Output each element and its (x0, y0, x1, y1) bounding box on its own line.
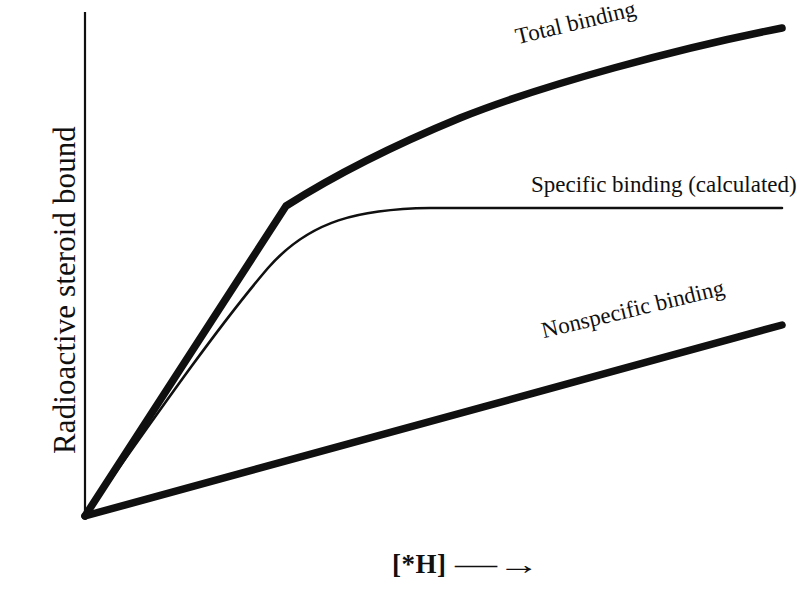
binding-curve-figure: Radioactive steroid bound [*H] —→ Total … (0, 0, 797, 601)
total-binding-curve (85, 28, 782, 516)
x-axis-label-text: [*H] (392, 549, 446, 580)
x-axis-label: [*H] —→ (392, 549, 514, 580)
right-arrow-icon: —→ (455, 550, 541, 579)
specific-binding-curve (85, 208, 782, 516)
specific-binding-label: Specific binding (calculated) (531, 172, 797, 198)
y-axis-label: Radioactive steroid bound (47, 80, 83, 500)
